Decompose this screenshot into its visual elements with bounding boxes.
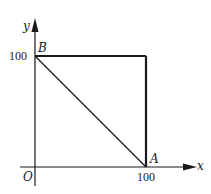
x-axis: [20, 164, 197, 171]
point-a-label: A: [149, 152, 159, 166]
x-tick-100: 100: [137, 170, 155, 184]
y-axis-label: y: [22, 19, 30, 33]
y-axis-arrow-icon: [32, 18, 39, 32]
x-axis-label: x: [197, 159, 204, 173]
origin-label: O: [23, 170, 33, 184]
y-tick-100: 100: [9, 49, 27, 63]
x-axis-arrow-icon: [183, 164, 197, 171]
coordinate-diagram: y x O B A 100 100: [0, 0, 211, 194]
point-b-label: B: [37, 41, 47, 55]
segment-b-to-a: [35, 56, 146, 167]
